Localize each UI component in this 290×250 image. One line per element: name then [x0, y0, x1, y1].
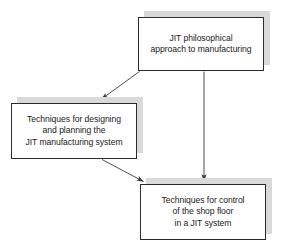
node-techniques-for-control[interactable]: Techniques for control of the shop floor… [140, 184, 266, 240]
arrow-design-to-control [102, 160, 144, 182]
node-jit-philosophical-approach[interactable]: JIT philosophical approach to manufactur… [138, 17, 264, 71]
diagram-canvas: JIT philosophical approach to manufactur… [0, 0, 290, 250]
node-label-design: Techniques for designing and planning th… [22, 114, 125, 148]
node-label-philosophy: JIT philosophical approach to manufactur… [148, 33, 255, 56]
node-label-control: Techniques for control of the shop floor… [159, 195, 248, 229]
arrow-philosophy-to-design [102, 72, 140, 100]
node-techniques-for-designing[interactable]: Techniques for designing and planning th… [11, 103, 137, 159]
